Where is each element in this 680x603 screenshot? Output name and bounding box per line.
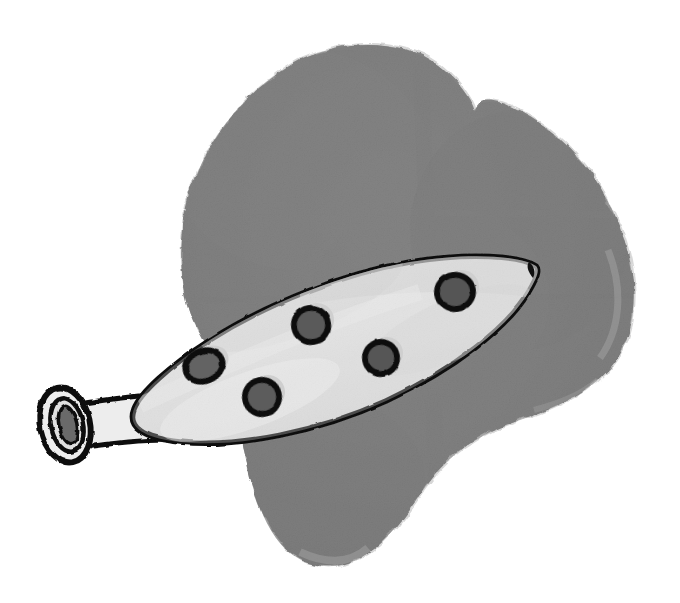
ocarina-illustration: [0, 0, 680, 603]
finger-hole-4-ring[interactable]: [362, 339, 399, 376]
artboard: A hand drawn ocarina with five finger ho…: [0, 0, 680, 603]
finger-hole-5-ring[interactable]: [435, 273, 475, 312]
finger-hole-3-ring[interactable]: [291, 305, 330, 344]
